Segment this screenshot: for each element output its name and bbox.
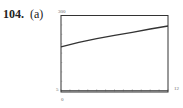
graph [0,0,183,108]
plot-area [61,25,168,91]
data-curve [61,26,168,47]
plot-frame [61,16,168,93]
